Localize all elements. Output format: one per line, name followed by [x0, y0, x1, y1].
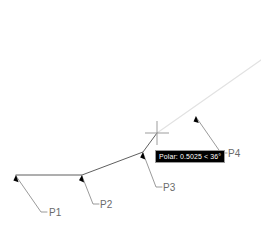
- crosshair-cursor-icon: [145, 121, 169, 145]
- point-annotation-p2: P2: [79, 175, 113, 210]
- cad-vector-layer: P1P2P3P4: [0, 0, 261, 232]
- point-label-p4: P4: [228, 148, 241, 159]
- annotation-leaders: P1P2P3P4: [13, 116, 240, 218]
- point-label-p3: P3: [163, 182, 176, 193]
- leader-line: [16, 176, 47, 212]
- point-label-p2: P2: [100, 199, 113, 210]
- leader-line: [82, 176, 99, 204]
- cad-drawing-canvas[interactable]: P1P2P3P4 Polar: 0.5025 < 36°: [0, 0, 261, 232]
- polar-tracking-tooltip: Polar: 0.5025 < 36°: [155, 150, 225, 163]
- polyline-geometry[interactable]: [16, 133, 157, 175]
- point-label-p1: P1: [49, 207, 62, 218]
- polar-tracking-line: [157, 60, 261, 133]
- point-annotation-p1: P1: [13, 175, 61, 218]
- leader-line: [196, 117, 227, 153]
